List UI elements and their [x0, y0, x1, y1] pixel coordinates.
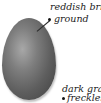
- label-freckles-line2: freckles: [67, 93, 101, 103]
- egg-illustration: [2, 18, 56, 100]
- bullet-freckles: [62, 97, 65, 100]
- bullet-ground: [48, 18, 51, 21]
- label-ground-line2: ground: [54, 14, 89, 24]
- label-ground-line1: reddish brick: [50, 2, 101, 12]
